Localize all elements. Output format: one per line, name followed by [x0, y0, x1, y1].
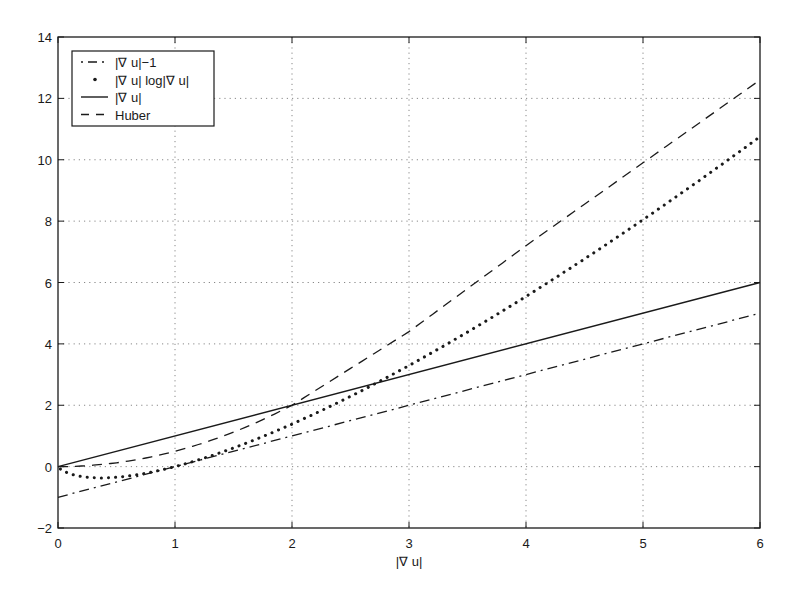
y-tick-label: 0 [45, 460, 52, 475]
series-line-1 [60, 137, 760, 478]
x-axis-label: |∇ u| [396, 554, 423, 569]
y-tick-label: −2 [37, 521, 52, 536]
legend-label: Huber [115, 108, 151, 123]
y-tick-label: 2 [45, 398, 52, 413]
legend: |∇ u|−1|∇ u| log|∇ u||∇ u|Huber [72, 51, 214, 126]
series-line-3 [58, 80, 760, 467]
y-tick-label: 12 [38, 91, 52, 106]
series-line-2 [58, 283, 760, 467]
data-series [58, 80, 760, 497]
legend-label: |∇ u| log|∇ u| [115, 73, 189, 88]
legend-label: |∇ u|−1 [115, 55, 156, 70]
x-tick-label: 6 [756, 536, 763, 551]
legend-swatch [93, 78, 97, 82]
chart-canvas: 0123456−202468101214 |∇ u| |∇ u|−1|∇ u| … [0, 0, 798, 598]
x-tick-label: 1 [171, 536, 178, 551]
y-tick-label: 6 [45, 276, 52, 291]
x-tick-label: 3 [405, 536, 412, 551]
y-tick-label: 14 [38, 30, 52, 45]
x-tick-label: 4 [522, 536, 529, 551]
y-tick-label: 4 [45, 337, 52, 352]
legend-label: |∇ u| [115, 90, 142, 105]
x-tick-label: 2 [288, 536, 295, 551]
x-tick-label: 5 [639, 536, 646, 551]
y-tick-label: 10 [38, 153, 52, 168]
x-tick-label: 0 [54, 536, 61, 551]
y-tick-label: 8 [45, 214, 52, 229]
